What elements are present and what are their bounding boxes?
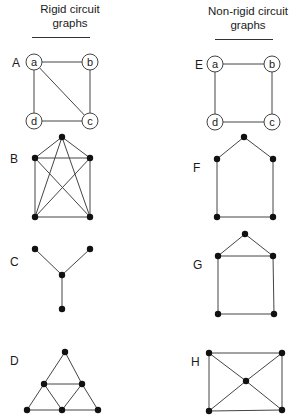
node-label: c [269,116,275,128]
circuit-graphs-figure: Rigid circuit graphs Non-rigid circuit g… [0,0,298,418]
graph-edge [35,249,62,275]
graph-edge [245,234,273,256]
node-label: b [87,56,93,68]
graph-node [24,407,30,413]
graph-label: D [10,354,19,368]
graph-node [59,134,65,140]
graph-edge [217,137,244,159]
node-label: a [31,56,38,68]
graph-node [214,214,220,220]
graph-node [215,311,221,317]
graph-B: B [10,134,93,220]
graph-E: Eabcd [195,56,280,130]
graph-D: D [10,349,101,413]
graphs-canvas: AabcdEabcdBFCGDH [0,0,298,418]
graph-node [59,407,65,413]
graph-F: F [193,134,276,220]
graph-node [279,407,285,413]
graph-node [279,350,285,356]
graph-edge [246,353,282,381]
graph-node [243,378,249,384]
graph-edge [244,137,273,159]
graph-edge [65,352,82,384]
graph-label: B [10,152,18,166]
graph-edge [209,410,282,411]
graph-edge [44,352,65,384]
graph-node [41,381,47,387]
graph-edge [246,381,282,410]
graph-node [87,246,93,252]
graph-node [270,253,276,259]
graph-node [271,311,277,317]
node-label: c [87,115,93,127]
graph-node [242,231,248,237]
graph-edge [34,62,90,121]
graph-label: H [191,355,200,369]
graph-edge [273,256,274,314]
graph-node [270,156,276,162]
graph-node [59,306,65,312]
graph-node [241,134,247,140]
graph-edge [62,249,90,275]
graph-node [32,155,38,161]
graph-edge [209,353,246,381]
graph-node [206,408,212,414]
graph-edge [35,137,62,217]
graph-node [215,253,221,259]
graph-label: C [10,255,19,269]
graph-node [206,350,212,356]
node-label: a [212,58,219,70]
graph-label: A [12,56,20,70]
node-label: b [269,58,275,70]
graph-label: F [193,161,200,175]
graph-node [87,214,93,220]
graph-A: Aabcd [12,54,98,129]
graph-edge [209,381,246,411]
graph-node [270,214,276,220]
graph-node [95,407,101,413]
node-label: d [212,116,218,128]
graph-node [214,156,220,162]
graph-C: C [10,246,93,312]
graph-edge [218,234,245,256]
graph-node [32,246,38,252]
graph-node [87,155,93,161]
graph-edge [27,384,44,410]
graph-G: G [193,231,277,317]
graph-node [32,214,38,220]
graph-label: G [193,258,202,272]
graph-node [59,272,65,278]
graph-H: H [191,350,285,414]
graph-edge [82,384,98,410]
graph-edge [62,384,82,410]
graph-edge [44,384,62,410]
graph-edge [62,137,90,217]
graph-label: E [195,58,203,72]
graph-node [79,381,85,387]
graph-node [62,349,68,355]
node-label: d [31,115,37,127]
